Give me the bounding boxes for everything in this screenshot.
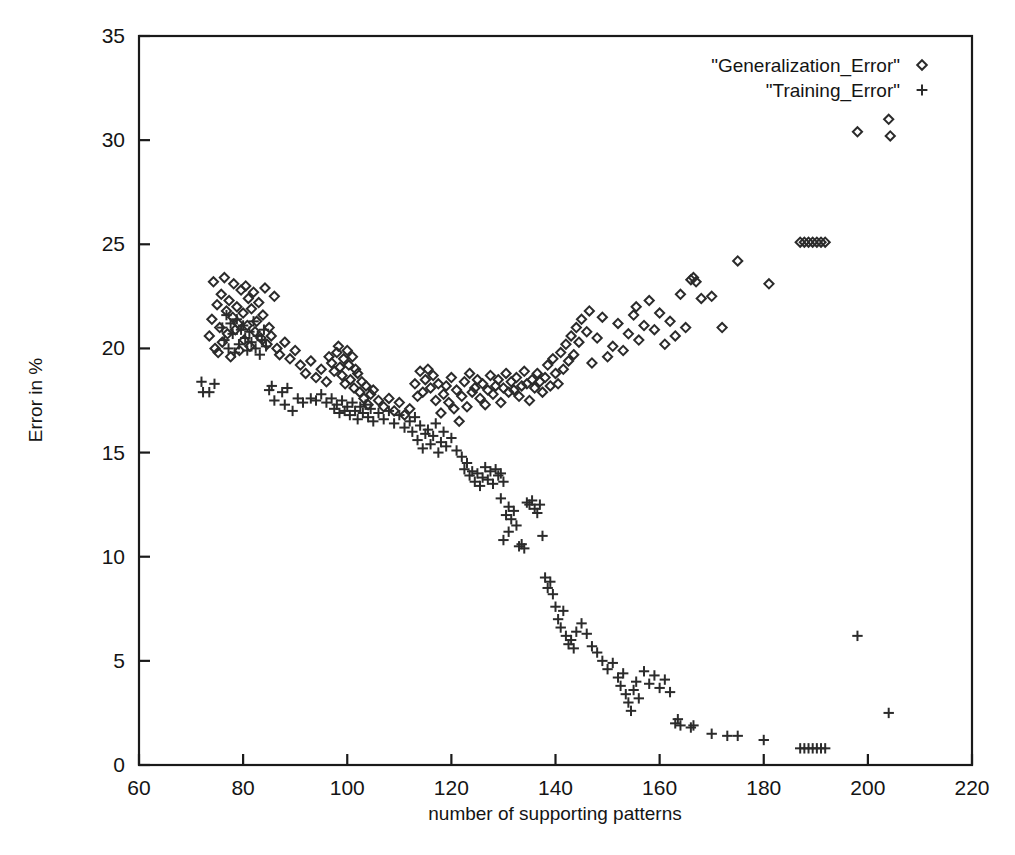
data-point-diamond [353,369,362,378]
data-point-diamond [207,315,216,324]
y-tick-label: 35 [102,24,125,47]
data-point-diamond [241,281,250,290]
data-point-diamond [260,283,269,292]
data-point-plus [852,631,862,641]
data-point-diamond [884,115,893,124]
data-point-diamond [733,256,742,265]
data-point-diamond [205,331,214,340]
data-point-diamond [665,317,674,326]
data-point-plus [759,735,769,745]
series-generalization-error [205,115,895,426]
x-axis-ticks: 6080100120140160180200220 [127,754,989,799]
data-point-plus [280,399,290,409]
data-point-plus [498,477,508,487]
legend-label-1: "Training_Error" [766,80,900,102]
data-point-diamond [691,277,700,286]
data-point-plus [378,414,388,424]
data-point-plus [542,583,552,593]
data-point-plus [553,614,563,624]
data-point-diamond [212,300,221,309]
data-point-diamond [217,290,226,299]
x-tick-label: 80 [231,776,254,799]
data-point-plus [597,656,607,666]
data-point-diamond [764,279,773,288]
x-tick-label: 140 [538,776,573,799]
data-point-diamond [650,325,659,334]
data-point-diamond [561,340,570,349]
data-point-plus [522,497,532,507]
data-point-diamond [577,315,586,324]
data-point-diamond [291,346,300,355]
data-point-diamond [608,342,617,351]
data-point-plus [631,676,641,686]
data-point-plus [626,706,636,716]
data-point-diamond [317,365,326,374]
data-point-diamond [247,304,256,313]
data-point-diamond [572,323,581,332]
data-point-plus [459,464,469,474]
data-point-plus [451,445,461,455]
data-point-plus [389,418,399,428]
data-point-diamond [267,331,276,340]
scatter-plot-figure: 05101520253035 6080100120140160180200220… [0,0,1015,855]
data-point-plus [688,720,698,730]
data-point-diamond [254,298,263,307]
data-point-diamond [296,360,305,369]
data-point-plus [608,658,618,668]
data-point-diamond [265,323,274,332]
plot-canvas: 05101520253035 6080100120140160180200220… [0,0,1015,855]
data-point-plus [556,622,566,632]
y-tick-label: 15 [102,441,125,464]
data-point-plus [665,687,675,697]
data-point-diamond [270,292,279,301]
data-point-diamond [285,354,294,363]
data-point-diamond [525,396,534,405]
data-point-plus [623,697,633,707]
data-point-plus [686,722,696,732]
data-point-diamond [681,323,690,332]
data-point-diamond [431,396,440,405]
data-point-plus [311,395,321,405]
data-point-diamond [886,131,895,140]
data-point-plus [722,731,732,741]
data-point-diamond [209,277,218,286]
data-point-diamond [707,292,716,301]
data-point-diamond [520,367,529,376]
data-point-diamond [465,369,474,378]
data-point-diamond [655,308,664,317]
data-point-diamond [619,346,628,355]
data-point-plus [592,647,602,657]
data-point-diamond [676,290,685,299]
y-axis-title: Error in % [25,358,46,443]
data-point-plus [733,731,743,741]
data-point-plus [644,679,654,689]
data-point-diamond [598,313,607,322]
data-point-plus [503,527,513,537]
data-point-diamond [280,338,289,347]
data-point-diamond [311,373,320,382]
data-point-diamond [395,398,404,407]
data-point-plus [514,541,524,551]
data-point-diamond [322,377,331,386]
legend-label-0: "Generalization_Error" [711,55,900,77]
data-point-plus [571,626,581,636]
data-point-diamond [496,398,505,407]
data-point-plus [438,427,448,437]
data-point-plus [615,681,625,691]
data-point-plus [269,395,279,405]
data-point-plus [917,85,928,96]
data-point-diamond [585,306,594,315]
y-tick-label: 10 [102,545,125,568]
data-point-diamond [645,296,654,305]
x-tick-label: 100 [330,776,365,799]
data-point-plus [457,452,467,462]
data-point-plus [204,387,214,397]
data-point-plus [511,520,521,530]
data-point-diamond [239,308,248,317]
data-point-diamond [660,340,669,349]
x-tick-label: 60 [127,776,150,799]
data-point-diamond [447,373,456,382]
data-point-diamond [460,377,469,386]
data-point-diamond [301,369,310,378]
x-tick-label: 220 [954,776,989,799]
